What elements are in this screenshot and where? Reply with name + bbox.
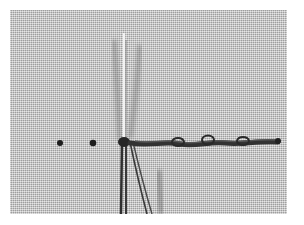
embroidery-photo (10, 10, 287, 214)
marker-dot-1 (57, 140, 63, 146)
stitch-end (275, 138, 281, 144)
marker-dot-2 (90, 140, 97, 147)
stitch-illustration (10, 10, 287, 214)
